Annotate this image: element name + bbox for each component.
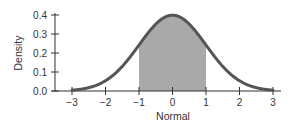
x-tick-label: 0 <box>170 97 176 108</box>
x-tick-label: 1 <box>203 97 209 108</box>
shaded-region <box>139 15 206 91</box>
y-tick-label: 0.2 <box>33 48 47 59</box>
x-tick-label: 2 <box>237 97 243 108</box>
y-tick-label: 0.0 <box>33 86 47 97</box>
y-axis-label: Density <box>12 35 24 71</box>
x-tick-label: −3 <box>66 97 78 108</box>
normal-density-chart: 0.00.10.20.30.4 −3−2−10123 Density Norma… <box>0 0 293 127</box>
x-tick-label: −1 <box>133 97 145 108</box>
x-axis-label: Normal <box>156 110 190 122</box>
y-tick-label: 0.3 <box>33 29 47 40</box>
y-tick-label: 0.4 <box>33 10 47 21</box>
x-tick-label: −2 <box>100 97 112 108</box>
y-tick-label: 0.1 <box>33 67 47 78</box>
x-tick-label: 3 <box>270 97 276 108</box>
